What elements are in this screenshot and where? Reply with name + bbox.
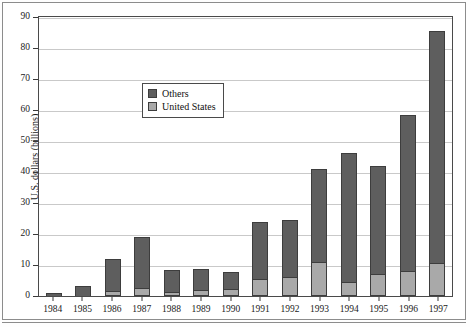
x-tick-mark [260, 297, 261, 301]
x-tick-text: 1986 [103, 304, 122, 314]
bar-segment-united-states[interactable] [429, 263, 445, 296]
bar-stack[interactable] [341, 153, 357, 296]
bar-segment-united-states[interactable] [164, 292, 180, 296]
figure-bottom-rule [2, 322, 466, 323]
y-tick-label: 20 [21, 229, 31, 239]
x-tick-label: 1994 [334, 297, 364, 323]
y-tick-label: 40 [21, 167, 31, 177]
x-tick-label: 1996 [394, 297, 424, 323]
x-tick-mark [230, 297, 231, 301]
x-tick-label: 1993 [305, 297, 335, 323]
y-tick-label: 30 [21, 198, 31, 208]
bar-segment-others[interactable] [341, 153, 357, 282]
x-tick-label: 1995 [364, 297, 394, 323]
bar-segment-others[interactable] [400, 115, 416, 272]
bar-group[interactable] [98, 17, 128, 296]
x-tick-mark [349, 297, 350, 301]
bar-segment-others[interactable] [429, 31, 445, 264]
bar-segment-united-states[interactable] [282, 277, 298, 296]
bar-stack[interactable] [223, 272, 239, 296]
x-tick-mark [171, 297, 172, 301]
x-tick-mark [378, 297, 379, 301]
bar-segment-united-states[interactable] [193, 290, 209, 296]
x-tick-text: 1984 [43, 304, 62, 314]
y-tick-label: 10 [21, 260, 31, 270]
bar-group[interactable] [423, 17, 453, 296]
bar-segment-united-states[interactable] [134, 288, 150, 296]
y-tick-label: 50 [21, 136, 31, 146]
bar-segment-others[interactable] [164, 270, 180, 292]
bar-segment-others[interactable] [311, 169, 327, 262]
bar-group[interactable] [393, 17, 423, 296]
legend-item[interactable]: Others [148, 87, 216, 100]
bar-segment-others[interactable] [252, 222, 268, 279]
bar-segment-united-states[interactable] [400, 271, 416, 296]
y-tick-label: 60 [21, 105, 31, 115]
legend-item[interactable]: United States [148, 100, 216, 113]
y-tick-label: 80 [21, 43, 31, 53]
x-tick-label: 1984 [38, 297, 68, 323]
bar-segment-others[interactable] [370, 166, 386, 275]
bar-group[interactable] [305, 17, 335, 296]
bar-stack[interactable] [282, 220, 298, 296]
bar-stack[interactable] [46, 293, 62, 296]
legend-swatch-icon [148, 89, 157, 98]
y-axis: 0102030405060708090 [0, 16, 38, 297]
bar-group[interactable] [39, 17, 69, 296]
x-tick-text: 1996 [399, 304, 418, 314]
bar-stack[interactable] [75, 286, 91, 296]
plot-area: OthersUnited States [38, 16, 453, 297]
bar-segment-others[interactable] [105, 259, 121, 291]
bar-group[interactable] [216, 17, 246, 296]
bar-group[interactable] [187, 17, 217, 296]
bar-stack[interactable] [429, 31, 445, 296]
x-tick-mark [438, 297, 439, 301]
bar-group[interactable] [334, 17, 364, 296]
bar-group[interactable] [128, 17, 158, 296]
bar-stack[interactable] [252, 222, 268, 296]
x-tick-label: 1991 [245, 297, 275, 323]
x-tick-text: 1989 [192, 304, 211, 314]
x-tick-text: 1997 [429, 304, 448, 314]
x-tick-label: 1987 [127, 297, 157, 323]
bar-segment-others[interactable] [46, 293, 62, 296]
bar-segment-others[interactable] [223, 272, 239, 289]
bar-segment-others[interactable] [134, 237, 150, 288]
bar-group[interactable] [157, 17, 187, 296]
x-tick-label: 1985 [68, 297, 98, 323]
bar-group[interactable] [364, 17, 394, 296]
bar-segment-united-states[interactable] [341, 282, 357, 296]
bar-segment-united-states[interactable] [105, 291, 121, 296]
x-tick-mark [289, 297, 290, 301]
bar-stack[interactable] [134, 237, 150, 296]
bar-group[interactable] [275, 17, 305, 296]
x-tick-text: 1985 [73, 304, 92, 314]
bar-segment-united-states[interactable] [311, 262, 327, 296]
bar-stack[interactable] [193, 269, 209, 296]
chart-figure: U.S. dollars (billions) 0102030405060708… [0, 0, 470, 327]
bar-series-container [39, 17, 452, 296]
bar-segment-others[interactable] [193, 269, 209, 291]
bar-group[interactable] [69, 17, 99, 296]
legend-label: Others [162, 89, 189, 99]
x-tick-mark [201, 297, 202, 301]
bar-segment-others[interactable] [75, 286, 91, 296]
bar-stack[interactable] [311, 169, 327, 296]
bar-segment-united-states[interactable] [252, 279, 268, 296]
bar-segment-united-states[interactable] [370, 274, 386, 296]
bar-segment-others[interactable] [282, 220, 298, 277]
bar-stack[interactable] [105, 259, 121, 296]
x-tick-mark [408, 297, 409, 301]
bar-segment-united-states[interactable] [223, 289, 239, 296]
bar-group[interactable] [246, 17, 276, 296]
x-tick-text: 1992 [280, 304, 299, 314]
bar-stack[interactable] [370, 166, 386, 296]
bar-stack[interactable] [400, 115, 416, 296]
x-tick-label: 1988 [157, 297, 187, 323]
x-tick-label: 1990 [216, 297, 246, 323]
x-axis: 1984198519861987198819891990199119921993… [38, 297, 453, 323]
x-tick-label: 1992 [275, 297, 305, 323]
x-tick-mark [112, 297, 113, 301]
bar-stack[interactable] [164, 270, 180, 296]
legend-swatch-icon [148, 102, 157, 111]
